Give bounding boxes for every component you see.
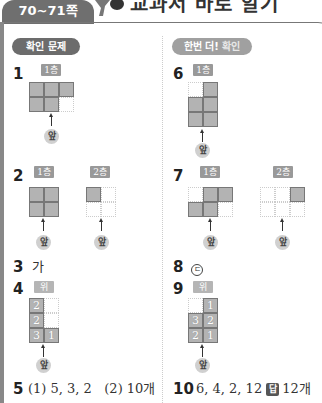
front-label: 앞	[44, 129, 59, 144]
problem-number: 10	[173, 381, 194, 397]
problem-number: 1	[13, 66, 23, 82]
problem-number: 9	[173, 281, 183, 297]
frame-left-bar	[0, 22, 4, 403]
problem-number: 4	[13, 281, 23, 297]
front-arrow-icon	[101, 221, 102, 231]
check-problem-badge: 확인 문제	[12, 38, 80, 55]
answer-text: 가	[32, 259, 44, 275]
floor1-label: 1층	[193, 64, 213, 76]
problem-number: 3	[13, 259, 23, 275]
front-label: 앞	[36, 235, 51, 250]
page-range-tab: 70~71쪽	[2, 0, 94, 24]
floor2-label: 2층	[90, 166, 110, 178]
front-label: 앞	[195, 358, 210, 373]
front-arrow-icon	[202, 347, 203, 357]
pencil-icon	[93, 0, 111, 16]
answer-text: (1) 5, 3, 2 (2) 10개	[28, 381, 155, 397]
answer-text: ㄷ	[191, 260, 203, 276]
circled-letter-icon: ㄷ	[191, 264, 203, 276]
front-arrow-icon	[202, 132, 203, 142]
check-again-badge: 한번 더! 확인	[172, 38, 252, 55]
front-label: 앞	[275, 235, 290, 250]
answer-icon: 답	[266, 383, 279, 396]
front-arrow-icon	[282, 221, 283, 231]
front-arrow-icon	[210, 221, 211, 231]
problem-number: 6	[173, 66, 183, 82]
problem-number: 5	[13, 381, 23, 397]
front-label: 앞	[203, 235, 218, 250]
floor1-label: 1층	[41, 64, 61, 76]
front-arrow-icon	[43, 347, 44, 357]
page-title: 교과서 바로 알기	[110, 0, 279, 14]
top-view-label: 위	[34, 281, 54, 293]
answer-text: 6, 4, 2, 12답12개	[196, 381, 311, 397]
floor1-label: 1층	[200, 166, 220, 178]
problem-number: 7	[173, 168, 183, 184]
problem-number: 8	[173, 259, 183, 275]
problem-number: 2	[13, 168, 23, 184]
top-view-label: 위	[193, 281, 213, 293]
column-divider	[162, 36, 163, 403]
front-label: 앞	[195, 143, 210, 158]
front-label: 앞	[94, 235, 109, 250]
front-label: 앞	[36, 358, 51, 373]
front-arrow-icon	[51, 116, 52, 126]
floor2-label: 2층	[273, 166, 293, 178]
front-arrow-icon	[43, 221, 44, 231]
speech-bubble-icon	[110, 0, 124, 10]
floor1-label: 1층	[34, 166, 54, 178]
